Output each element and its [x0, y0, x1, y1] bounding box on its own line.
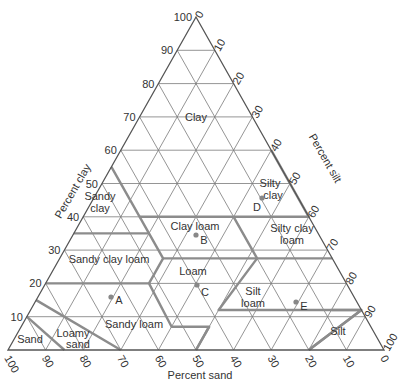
sand-tick: 50: [190, 353, 207, 370]
label-sand: Sand: [17, 333, 43, 345]
sand-tick: 70: [115, 353, 132, 370]
sample-label-a: A: [115, 294, 123, 306]
clay-tick: 20: [29, 277, 41, 289]
silt-tick: 50: [286, 170, 303, 187]
sample-label-d: D: [253, 201, 261, 213]
label-sandy-loam: Sandy loam: [105, 318, 163, 330]
label-clay: Clay: [185, 111, 208, 123]
sample-label-e: E: [300, 300, 307, 312]
silt-axis-title: Percent silt: [307, 131, 345, 184]
clay-tick: 10: [11, 311, 23, 323]
silt-tick: 80: [343, 270, 360, 287]
clay-tick: 80: [142, 78, 154, 90]
soil-texture-triangle: 10 20 30 40 50 60 70 80 90 100 0 10 20 3…: [0, 0, 403, 385]
sample-point-d: [259, 195, 264, 200]
silt-tick: 70: [324, 236, 341, 253]
label-sandy-clay-loam: Sandy clay loam: [69, 253, 150, 265]
sample-point-a: [108, 294, 113, 299]
silt-tick: 30: [249, 103, 266, 120]
silt-tick: 10: [211, 37, 228, 54]
clay-tick: 60: [105, 144, 117, 156]
label-loam: Loam: [179, 265, 207, 277]
sand-tick: 60: [153, 353, 170, 370]
clay-tick: 100: [174, 11, 192, 23]
clay-tick: 40: [67, 211, 79, 223]
label-sandy-clay: Sandyclay: [84, 190, 116, 214]
sample-point-b: [193, 232, 198, 237]
grid-lines: [27, 50, 365, 350]
clay-tick: 90: [161, 44, 173, 56]
sand-tick: 20: [303, 353, 320, 370]
sand-tick: 10: [341, 353, 358, 370]
clay-tick: 30: [48, 244, 60, 256]
label-clay-loam: Clay loam: [171, 220, 220, 232]
sand-tick: 30: [265, 353, 282, 370]
clay-tick: 50: [86, 178, 98, 190]
silt-tick: 0: [192, 9, 205, 20]
clay-axis-ticks: 10 20 30 40 50 60 70 80 90 100: [11, 11, 192, 323]
silt-tick: 40: [268, 137, 285, 154]
class-labels: Clay Sandyclay Siltyclay Clay loam Silty…: [17, 111, 345, 350]
silt-tick: 20: [230, 70, 247, 87]
sand-tick: 90: [40, 353, 57, 370]
label-silty-clay-loam: Silty clayloam: [270, 222, 314, 246]
sand-tick: 40: [228, 353, 245, 370]
label-silt-loam: Siltloam: [241, 285, 265, 309]
sample-label-b: B: [200, 234, 207, 246]
silt-tick: 90: [362, 303, 379, 320]
sample-label-c: C: [201, 286, 209, 298]
sand-tick: 80: [77, 353, 94, 370]
label-silt: Silt: [330, 325, 345, 337]
sand-axis-title: Percent sand: [168, 369, 233, 381]
sand-tick: 100: [2, 353, 22, 375]
sample-point-c: [194, 282, 199, 287]
clay-tick: 70: [123, 111, 135, 123]
silt-tick: 100: [380, 331, 400, 353]
sample-point-e: [293, 299, 298, 304]
sand-tick: 0: [378, 353, 391, 364]
